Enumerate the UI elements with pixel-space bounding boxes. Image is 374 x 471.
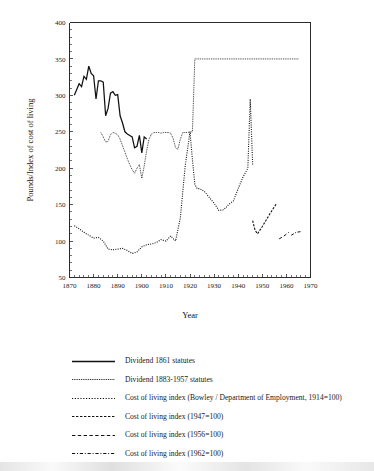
y-axis-ticks (70, 23, 74, 278)
x-tick-label: 1900 (135, 282, 150, 290)
legend-item[interactable]: Cost of living index (Bowley / Departmen… (0, 389, 374, 408)
axis-frame (70, 23, 311, 278)
series-line-3 (253, 203, 277, 234)
legend-item-label: Dividend 1861 statutes (125, 357, 195, 365)
legend-line-swatch (72, 395, 115, 402)
data-series-group (74, 59, 301, 254)
y-tick-label: 100 (55, 238, 66, 246)
x-axis-title: Year (182, 310, 198, 320)
x-tick-label: 1910 (159, 282, 174, 290)
legend-item-label: Cost of living index (1947=100) (125, 413, 223, 421)
legend-item-label: Cost of living index (Bowley / Departmen… (125, 394, 342, 402)
legend-item[interactable]: Dividend 1883-1957 statutes (0, 371, 374, 390)
legend-item[interactable]: Dividend 1861 statutes (0, 352, 374, 371)
legend-line-swatch (72, 450, 115, 457)
legend-item-label: Cost of living index (1962=100) (125, 450, 223, 458)
series-line-1 (101, 59, 299, 178)
figure-container: 50100150200250300350400 1870188018901900… (0, 0, 374, 471)
x-tick-label: 1890 (111, 282, 126, 290)
legend-item[interactable]: Cost of living index (1956=100) (0, 426, 374, 445)
x-tick-label: 1970 (304, 282, 319, 290)
legend-item-label: Dividend 1883-1957 statutes (125, 376, 213, 384)
x-tick-label: 1940 (231, 282, 246, 290)
legend-line-swatch (72, 358, 115, 365)
legend-item-label: Cost of living index (1956=100) (125, 431, 223, 439)
series-line-5 (291, 232, 301, 236)
x-tick-label: 1930 (207, 282, 222, 290)
x-tick-label: 1870 (63, 282, 78, 290)
line-chart: 50100150200250300350400 1870188018901900… (0, 0, 374, 330)
scan-artifact-strip (0, 462, 374, 471)
x-tick-label: 1950 (255, 282, 270, 290)
legend-line-swatch (72, 376, 115, 383)
y-axis-tick-labels: 50100150200250300350400 (55, 19, 66, 282)
series-line-4 (279, 232, 289, 239)
x-tick-label: 1920 (183, 282, 198, 290)
series-line-2 (74, 99, 252, 253)
y-tick-label: 150 (55, 201, 66, 209)
legend-item[interactable]: Cost of living index (1947=100) (0, 408, 374, 427)
x-axis-tick-labels: 1870188018901900191019201930194019501960… (63, 282, 319, 290)
y-axis-title: Pounds/Index of cost of living (25, 98, 35, 202)
series-line-0 (74, 66, 146, 153)
y-tick-label: 350 (55, 56, 66, 64)
y-tick-label: 250 (55, 128, 66, 136)
legend-line-swatch (72, 432, 115, 439)
legend-item[interactable]: Cost of living index (1962=100) (0, 445, 374, 464)
x-tick-label: 1880 (87, 282, 102, 290)
x-axis-ticks (70, 274, 311, 278)
chart-legend: Dividend 1861 statutesDividend 1883-1957… (0, 352, 374, 464)
x-tick-label: 1960 (279, 282, 294, 290)
y-tick-label: 300 (55, 92, 66, 100)
legend-line-swatch (72, 413, 115, 420)
y-tick-label: 400 (55, 19, 66, 27)
y-tick-label: 200 (55, 165, 66, 173)
